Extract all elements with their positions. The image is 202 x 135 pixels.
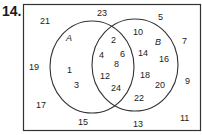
intersection-value: 12	[100, 71, 110, 81]
outside-value: 23	[97, 8, 107, 18]
b-only-value: 16	[159, 54, 169, 64]
intersection-value: 2	[111, 35, 116, 45]
outside-value: 13	[133, 119, 143, 129]
intersection-value: 24	[111, 83, 121, 93]
intersection-value: 6	[120, 49, 125, 59]
b-only-value: 18	[140, 70, 150, 80]
a-only-value: 3	[74, 80, 79, 90]
outside-value: 9	[185, 76, 190, 86]
set-b-label: B	[155, 37, 161, 47]
b-only-value: 14	[138, 48, 148, 58]
b-only-value: 10	[133, 27, 143, 37]
outside-value: 17	[36, 100, 46, 110]
set-a-label: A	[65, 33, 72, 43]
intersection-value: 8	[114, 59, 119, 69]
outside-value: 19	[29, 62, 39, 72]
b-only-value: 20	[155, 80, 165, 90]
outside-value: 21	[40, 16, 50, 26]
outside-value: 7	[182, 36, 187, 46]
intersection-value: 4	[99, 50, 104, 60]
venn-diagram: A B 21 23 5 19 7 17 15 13 11 9 1 3 2 4 6…	[0, 0, 202, 135]
a-only-value: 1	[67, 65, 72, 75]
outside-value: 11	[180, 113, 189, 123]
outside-value: 15	[78, 117, 88, 127]
outside-value: 5	[158, 12, 163, 22]
b-only-value: 22	[134, 93, 144, 103]
